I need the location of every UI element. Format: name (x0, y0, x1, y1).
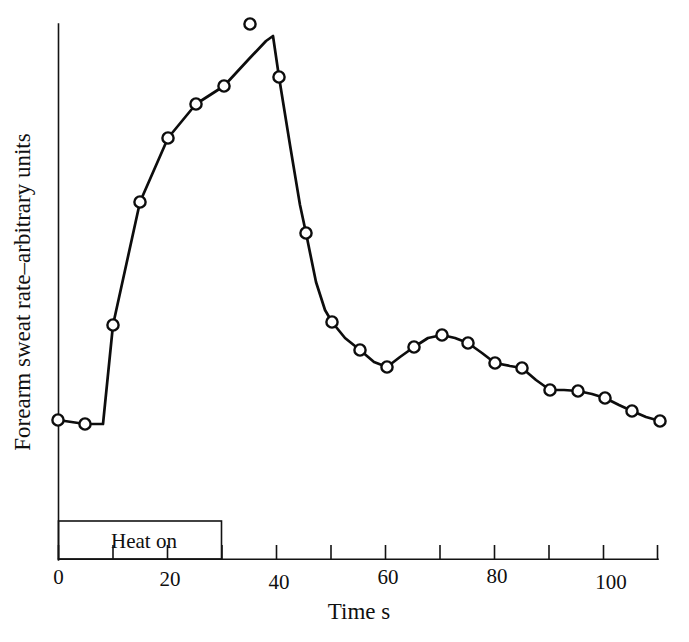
y-axis-title: Forearm sweat rate–arbitrary units (10, 133, 35, 450)
data-point (300, 227, 311, 238)
data-point (462, 337, 473, 348)
x-tick-label-20: 20 (160, 567, 181, 591)
sweat-rate-line-chart: 0 20 40 60 80 100 Time s Forearm sweat r… (0, 0, 689, 642)
x-tick-label-80: 80 (487, 564, 508, 588)
data-point (408, 341, 419, 352)
x-axis-title: Time s (328, 599, 390, 624)
data-point (218, 80, 229, 91)
data-point (654, 415, 665, 426)
data-point (326, 316, 337, 327)
data-point-outlier (244, 18, 255, 29)
x-tick-label-60: 60 (378, 565, 399, 589)
sweat-rate-curve (58, 36, 660, 424)
chart-figure: 0 20 40 60 80 100 Time s Forearm sweat r… (0, 0, 689, 642)
data-point (107, 319, 118, 330)
x-tick-label-40: 40 (269, 570, 290, 594)
x-tick-label-100: 100 (595, 570, 627, 594)
data-point (162, 132, 173, 143)
data-point (599, 392, 610, 403)
data-point (190, 98, 201, 109)
data-point (79, 418, 90, 429)
data-point (381, 361, 392, 372)
data-point (544, 384, 555, 395)
data-point (436, 329, 447, 340)
data-point (516, 362, 527, 373)
heat-on-label: Heat on (111, 529, 177, 553)
data-point (52, 414, 63, 425)
data-point-markers (52, 18, 665, 429)
data-point (354, 344, 365, 355)
data-point (572, 385, 583, 396)
x-tick-label-0: 0 (53, 565, 64, 589)
data-point (273, 71, 284, 82)
data-point (626, 405, 637, 416)
data-point (134, 196, 145, 207)
data-point (489, 357, 500, 368)
